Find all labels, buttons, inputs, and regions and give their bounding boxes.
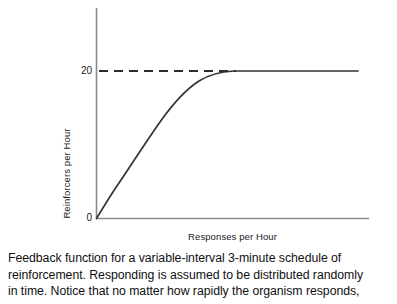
y-axis-title-wrapper: Reinforcers per Hour bbox=[0, 50, 132, 186]
figure-root: 20 0 Reinforcers per Hour Responses per … bbox=[0, 0, 397, 304]
caption-line-2: reinforcement. Responding is assumed to … bbox=[8, 267, 393, 284]
caption-line-1: Feedback function for a variable-interva… bbox=[8, 250, 393, 267]
chart-plot-area: 20 0 Reinforcers per Hour Responses per … bbox=[0, 0, 397, 248]
y-axis-title: Reinforcers per Hour bbox=[61, 107, 72, 241]
y-axis-tick-label-0: 0 bbox=[78, 213, 92, 223]
feedback-function-curve bbox=[97, 71, 359, 219]
figure-caption: Feedback function for a variable-interva… bbox=[8, 250, 393, 300]
caption-line-3: in time. Notice that no matter how rapid… bbox=[8, 283, 393, 300]
x-axis-title: Responses per Hour bbox=[150, 231, 315, 242]
